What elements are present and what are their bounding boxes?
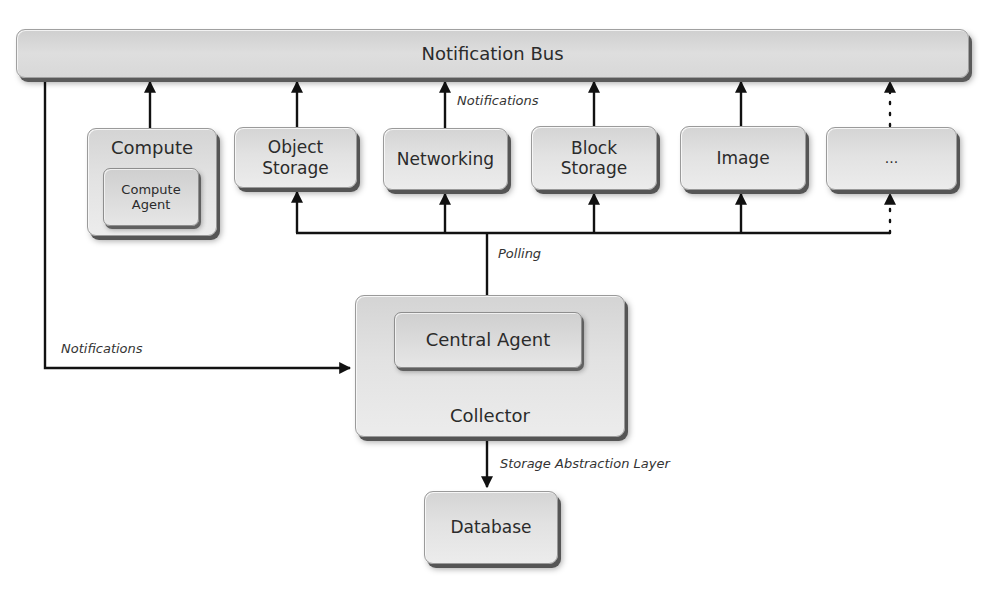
more-services-node: ... [826,127,957,190]
storage-abstraction-layer-label: Storage Abstraction Layer [500,456,670,471]
compute-agent-label: Compute Agent [116,182,186,213]
more-services-label: ... [885,150,898,167]
compute-node: Compute Compute Agent [87,128,217,236]
database-node: Database [424,491,558,564]
collector-label: Collector [450,405,530,426]
collector-node: Collector Central Agent [355,295,625,437]
bus-notifications-label: Notifications [61,341,143,356]
block-storage-label: Block Storage [554,138,634,178]
central-agent-label: Central Agent [426,329,551,350]
polling-label: Polling [498,246,541,261]
services-notifications-label: Notifications [457,93,539,108]
object-storage-label: Object Storage [253,137,338,177]
central-agent-node: Central Agent [394,312,582,368]
block-storage-node: Block Storage [531,126,657,190]
compute-label: Compute [111,137,193,158]
database-label: Database [450,517,531,537]
notification-bus-label: Notification Bus [421,43,563,64]
notification-bus: Notification Bus [16,29,969,78]
image-label: Image [716,148,769,168]
networking-node: Networking [383,128,508,190]
networking-label: Networking [397,149,494,169]
object-storage-node: Object Storage [234,127,357,188]
image-node: Image [680,126,806,190]
compute-agent-node: Compute Agent [103,168,199,226]
